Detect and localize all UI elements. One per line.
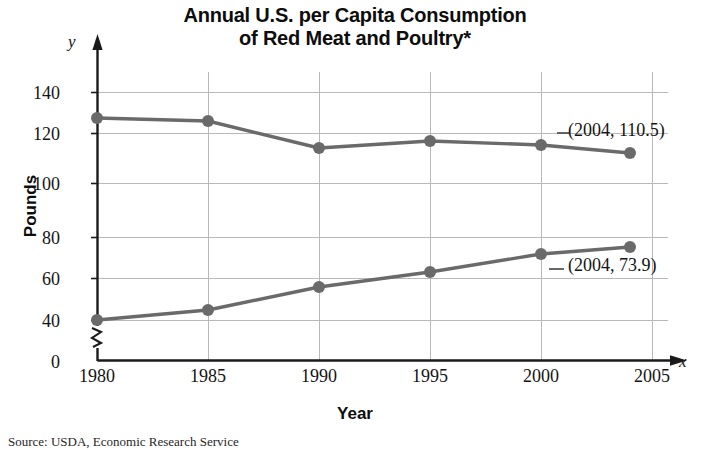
y-tick-label: 60 [14, 269, 60, 290]
series-markers-poultry [91, 241, 636, 326]
series-line-poultry [91, 241, 636, 326]
y-axis-letter: y [68, 32, 76, 52]
series-line-red-meat [91, 112, 636, 159]
axis-break-icon [92, 328, 101, 347]
annotation-poultry-2004: (2004, 73.9) [568, 255, 657, 276]
x-tick-label: 1985 [173, 366, 243, 387]
series-markers-red-meat [91, 112, 636, 159]
y-tick-label: 40 [14, 311, 60, 332]
y-tick-label: 80 [14, 228, 60, 249]
y-tick-marks [91, 93, 97, 321]
gridlines-vertical [209, 72, 653, 361]
x-tick-label: 1980 [62, 366, 132, 387]
y-tick-label: 0 [14, 352, 60, 373]
annotation-red-meat-2004: (2004, 110.5) [568, 120, 665, 141]
y-tick-label: 140 [14, 83, 60, 104]
x-tick-label: 1995 [395, 366, 465, 387]
source-note: Source: USDA, Economic Research Service [8, 434, 239, 450]
x-tick-label: 2000 [506, 366, 576, 387]
chart-title: Annual U.S. per Capita Consumption of Re… [95, 4, 615, 50]
y-tick-label: 100 [14, 174, 60, 195]
y-tick-label: 120 [14, 124, 60, 145]
chart-title-line-1: Annual U.S. per Capita Consumption [95, 4, 615, 27]
x-axis-title: Year [95, 404, 615, 424]
x-tick-label: 2005 [617, 366, 687, 387]
chart-title-line-2: of Red Meat and Poultry* [95, 27, 615, 50]
x-tick-label: 1990 [284, 366, 354, 387]
